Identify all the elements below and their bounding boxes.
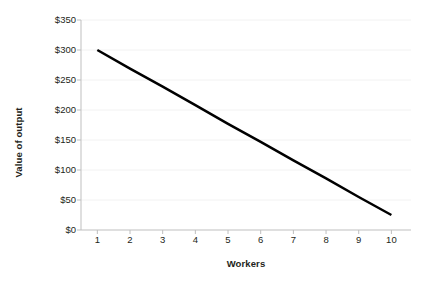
plot-svg	[81, 20, 411, 230]
y-axis-tick-label: $100	[26, 165, 76, 175]
plot-area	[81, 20, 411, 230]
y-axis-tick-label: $250	[26, 75, 76, 85]
x-axis-tick-labels: 12345678910	[81, 234, 411, 250]
x-axis-tick-label: 10	[371, 234, 411, 246]
y-axis-tick-labels: $0$50$100$150$200$250$300$350	[26, 14, 76, 230]
y-axis-tick-label: $200	[26, 105, 76, 115]
y-axis-ticks	[77, 20, 81, 230]
data-series	[97, 50, 391, 215]
series-line	[97, 50, 391, 215]
y-axis-tick-label: $50	[26, 195, 76, 205]
y-axis-tick-label: $300	[26, 45, 76, 55]
y-axis-tick-label: $350	[26, 15, 76, 25]
y-axis-tick-label: $0	[26, 225, 76, 235]
gridlines	[81, 20, 411, 200]
x-axis-title: Workers	[81, 258, 411, 269]
y-axis-tick-label: $150	[26, 135, 76, 145]
line-chart: Value of output $0$50$100$150$200$250$30…	[0, 0, 432, 285]
